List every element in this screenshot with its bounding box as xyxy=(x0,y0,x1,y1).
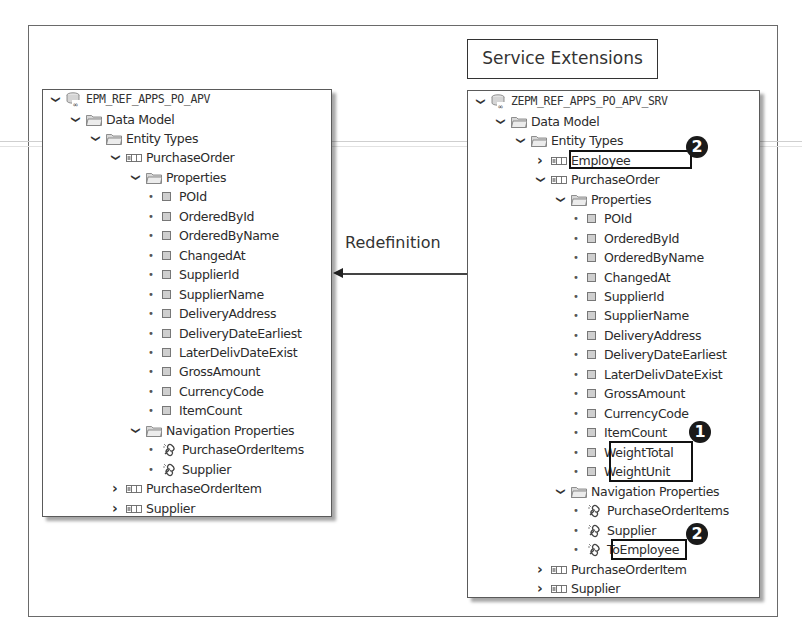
property-icon xyxy=(587,253,596,262)
tree-node-navigation-properties[interactable]: ❯ Navigation Properties xyxy=(555,482,719,501)
property-icon xyxy=(162,406,171,415)
property-icon xyxy=(587,409,596,418)
bullet-icon: • xyxy=(571,268,581,287)
tree-label: ItemCount xyxy=(604,423,667,442)
bullet-icon: • xyxy=(571,365,581,384)
bullet-icon: • xyxy=(571,443,581,462)
tree-label: CurrencyCode xyxy=(179,382,264,401)
tree-label: Properties xyxy=(591,190,651,209)
tree-node-navigation[interactable]: •PurchaseOrderItems xyxy=(146,440,304,459)
tree-node-service-root[interactable]: ❯ ZEPM_REF_APPS_PO_APV_SRV xyxy=(475,92,668,111)
chevron-right-icon[interactable]: › xyxy=(110,479,120,498)
tree-node-entity-types[interactable]: ❯ Entity Types xyxy=(90,129,198,148)
bullet-icon: • xyxy=(571,521,581,540)
tree-node-entity-purchase-order-item[interactable]: › PurchaseOrderItem xyxy=(110,479,262,498)
chevron-down-icon[interactable]: ❯ xyxy=(66,115,85,125)
tree-node-property[interactable]: •LaterDelivDateExist xyxy=(146,343,297,362)
chevron-down-icon[interactable]: ❯ xyxy=(531,175,550,185)
tree-node-property[interactable]: •LaterDelivDateExist xyxy=(571,365,722,384)
bullet-icon: • xyxy=(571,423,581,442)
tree-node-property[interactable]: •DeliveryAddress xyxy=(571,326,701,345)
tree-node-property[interactable]: •ChangedAt xyxy=(146,246,245,265)
tree-node-property[interactable]: •OrderedById xyxy=(571,229,679,248)
chevron-down-icon[interactable]: ❯ xyxy=(126,426,145,436)
folder-icon xyxy=(146,172,162,184)
tree-node-property[interactable]: •DeliveryDateEarliest xyxy=(571,345,727,364)
chevron-down-icon[interactable]: ❯ xyxy=(126,173,145,183)
tree-label: GrossAmount xyxy=(179,362,260,381)
bullet-icon: • xyxy=(571,384,581,403)
bullet-icon: • xyxy=(146,285,156,304)
tree-node-service-root[interactable]: ❯ EPM_REF_APPS_PO_APV xyxy=(50,90,210,109)
tree-node-property[interactable]: •ItemCount xyxy=(146,401,242,420)
bullet-icon: • xyxy=(146,187,156,206)
chevron-down-icon[interactable]: ❯ xyxy=(106,153,125,163)
chevron-down-icon[interactable]: ❯ xyxy=(491,117,510,127)
tree-node-property[interactable]: •SupplierName xyxy=(146,285,264,304)
tree-node-purchase-order[interactable]: ❯ PurchaseOrder xyxy=(110,148,234,167)
chevron-down-icon[interactable]: ❯ xyxy=(511,136,530,146)
tree-node-property[interactable]: •OrderedByName xyxy=(146,226,279,245)
chevron-down-icon[interactable]: ❯ xyxy=(86,134,105,144)
tree-node-property[interactable]: •OrderedById xyxy=(146,207,254,226)
tree-node-purchase-order[interactable]: ❯ PurchaseOrder xyxy=(535,170,659,189)
tree-node-entity-supplier[interactable]: › Supplier xyxy=(535,579,620,598)
folder-icon xyxy=(511,116,527,128)
tree-label: POId xyxy=(179,187,207,206)
tree-node-property[interactable]: •SupplierName xyxy=(571,306,689,325)
tree-node-entity-types[interactable]: ❯ Entity Types xyxy=(515,131,623,150)
tree-node-property[interactable]: •ItemCount xyxy=(571,423,667,442)
tree-node-property[interactable]: •SupplierId xyxy=(571,287,664,306)
tree-node-properties[interactable]: ❯ Properties xyxy=(130,168,226,187)
bullet-icon: • xyxy=(571,209,581,228)
chevron-down-icon[interactable]: ❯ xyxy=(551,195,570,205)
chevron-right-icon[interactable]: › xyxy=(535,560,545,579)
tree-node-data-model[interactable]: ❯ Data Model xyxy=(70,110,174,129)
redefinition-arrow-line xyxy=(340,273,467,275)
tree-node-navigation-properties[interactable]: ❯ Navigation Properties xyxy=(130,421,294,440)
tree-node-properties[interactable]: ❯ Properties xyxy=(555,190,651,209)
chevron-right-icon[interactable]: › xyxy=(110,499,120,518)
tree-node-entity-purchase-order-item[interactable]: › PurchaseOrderItem xyxy=(535,560,687,579)
tree-node-property[interactable]: •GrossAmount xyxy=(571,384,685,403)
tree-node-property[interactable]: •CurrencyCode xyxy=(571,404,689,423)
tree-node-navigation[interactable]: •Supplier xyxy=(571,521,656,540)
tree-node-property[interactable]: •SupplierId xyxy=(146,265,239,284)
employee-highlight-box xyxy=(569,150,692,169)
property-icon xyxy=(162,270,171,279)
tree-node-property[interactable]: •ChangedAt xyxy=(571,268,670,287)
tree-node-property[interactable]: •DeliveryAddress xyxy=(146,304,276,323)
tree-label: Entity Types xyxy=(126,129,198,148)
tree-node-property[interactable]: •POId xyxy=(146,187,207,206)
folder-icon xyxy=(571,486,587,498)
bullet-icon: • xyxy=(571,326,581,345)
tree-label: DeliveryDateEarliest xyxy=(604,345,727,364)
tree-node-property[interactable]: •OrderedByName xyxy=(571,248,704,267)
tree-label: DeliveryAddress xyxy=(179,304,276,323)
tree-node-navigation[interactable]: •PurchaseOrderItems xyxy=(571,501,729,520)
tree-label: LaterDelivDateExist xyxy=(604,365,722,384)
bullet-icon: • xyxy=(146,440,156,459)
weight-properties-highlight-box xyxy=(609,441,693,482)
tree-node-data-model[interactable]: ❯ Data Model xyxy=(495,112,599,131)
tree-node-property[interactable]: •GrossAmount xyxy=(146,362,260,381)
tree-node-property[interactable]: •DeliveryDateEarliest xyxy=(146,324,302,343)
entity-type-icon xyxy=(126,485,142,493)
folder-icon xyxy=(106,133,122,145)
bullet-icon: • xyxy=(146,362,156,381)
tree-node-navigation[interactable]: •Supplier xyxy=(146,460,231,479)
tree-node-property[interactable]: •CurrencyCode xyxy=(146,382,264,401)
chevron-down-icon[interactable]: ❯ xyxy=(471,97,490,107)
bullet-icon: • xyxy=(146,226,156,245)
tree-node-property[interactable]: •POId xyxy=(571,209,632,228)
link-icon xyxy=(587,503,603,519)
tree-label: Entity Types xyxy=(551,131,623,150)
chevron-right-icon[interactable]: › xyxy=(535,151,545,170)
tree-node-entity-supplier[interactable]: › Supplier xyxy=(110,499,195,518)
chevron-down-icon[interactable]: ❯ xyxy=(46,95,65,105)
tree-label: OrderedByName xyxy=(604,248,704,267)
chevron-right-icon[interactable]: › xyxy=(535,579,545,598)
property-icon xyxy=(587,234,596,243)
original-service-tree: ❯ EPM_REF_APPS_PO_APV ❯ Data Model ❯ Ent… xyxy=(43,90,331,516)
chevron-down-icon[interactable]: ❯ xyxy=(551,487,570,497)
